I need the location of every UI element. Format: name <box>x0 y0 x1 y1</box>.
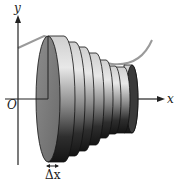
x-axis-label: x <box>167 92 174 106</box>
disk-stack <box>36 36 138 162</box>
x-axis-arrow-icon <box>157 96 165 102</box>
delta-x-label: Δx <box>45 168 61 182</box>
y-axis-label: y <box>13 1 21 15</box>
origin-label: O <box>7 98 17 112</box>
y-axis-arrow-icon <box>15 15 21 23</box>
solid-of-revolution-figure: y x O Δx <box>0 0 181 184</box>
